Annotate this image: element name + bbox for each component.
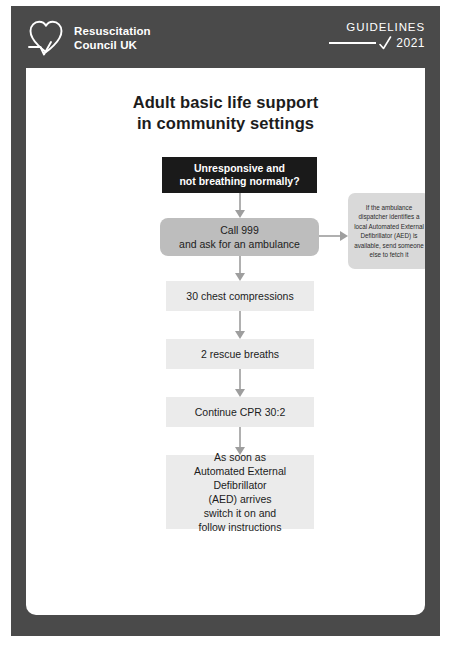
heart-ecg-logo-icon [27, 18, 65, 58]
connector-arrow-2 [232, 256, 248, 281]
connector-line [239, 193, 241, 210]
flow-node-unresponsive: Unresponsive and not breathing normally? [162, 157, 317, 193]
brand-lockup: Resuscitation Council UK [27, 18, 151, 58]
flow-node-chest-compressions: 30 chest compressions [166, 281, 314, 311]
guidelines-label: GUIDELINES [329, 20, 425, 34]
poster-header: Resuscitation Council UK GUIDELINES 2021 [11, 6, 440, 68]
arrowhead-down-icon [235, 389, 245, 397]
arrowhead-down-icon [235, 331, 245, 339]
page-title: Adult basic life support in community se… [26, 92, 425, 134]
guidelines-year-row: 2021 [329, 36, 425, 50]
checkmark-icon [379, 36, 392, 50]
connector-arrow-to-callout [319, 230, 348, 242]
content-sheet: Adult basic life support in community se… [26, 68, 425, 615]
callout-dispatcher-aed-note: If the ambulance dispatcher identifies a… [348, 193, 425, 269]
arrowhead-down-icon [235, 210, 245, 218]
flow-node-continue-cpr: Continue CPR 30:2 [166, 397, 314, 427]
guideline-poster: Resuscitation Council UK GUIDELINES 2021… [11, 6, 440, 636]
connector-arrow-3 [232, 311, 248, 339]
connector-line [239, 256, 241, 273]
arrowhead-right-icon [340, 231, 348, 241]
flow-node-rescue-breaths: 2 rescue breaths [166, 339, 314, 369]
connector-line [239, 369, 241, 389]
connector-arrow-4 [232, 369, 248, 397]
connector-line [239, 427, 241, 447]
arrowhead-down-icon [235, 273, 245, 281]
guidelines-badge: GUIDELINES 2021 [329, 20, 425, 50]
brand-name: Resuscitation Council UK [74, 24, 151, 53]
flow-node-call-999: Call 999 and ask for an ambulance [160, 218, 319, 256]
flow-node-aed-arrives: As soon as Automated External Defibrilla… [166, 455, 314, 529]
connector-arrow-1 [232, 193, 248, 218]
connector-line [239, 311, 241, 331]
guidelines-year: 2021 [396, 36, 425, 50]
connector-line [319, 235, 340, 237]
guidelines-rule [329, 42, 376, 44]
